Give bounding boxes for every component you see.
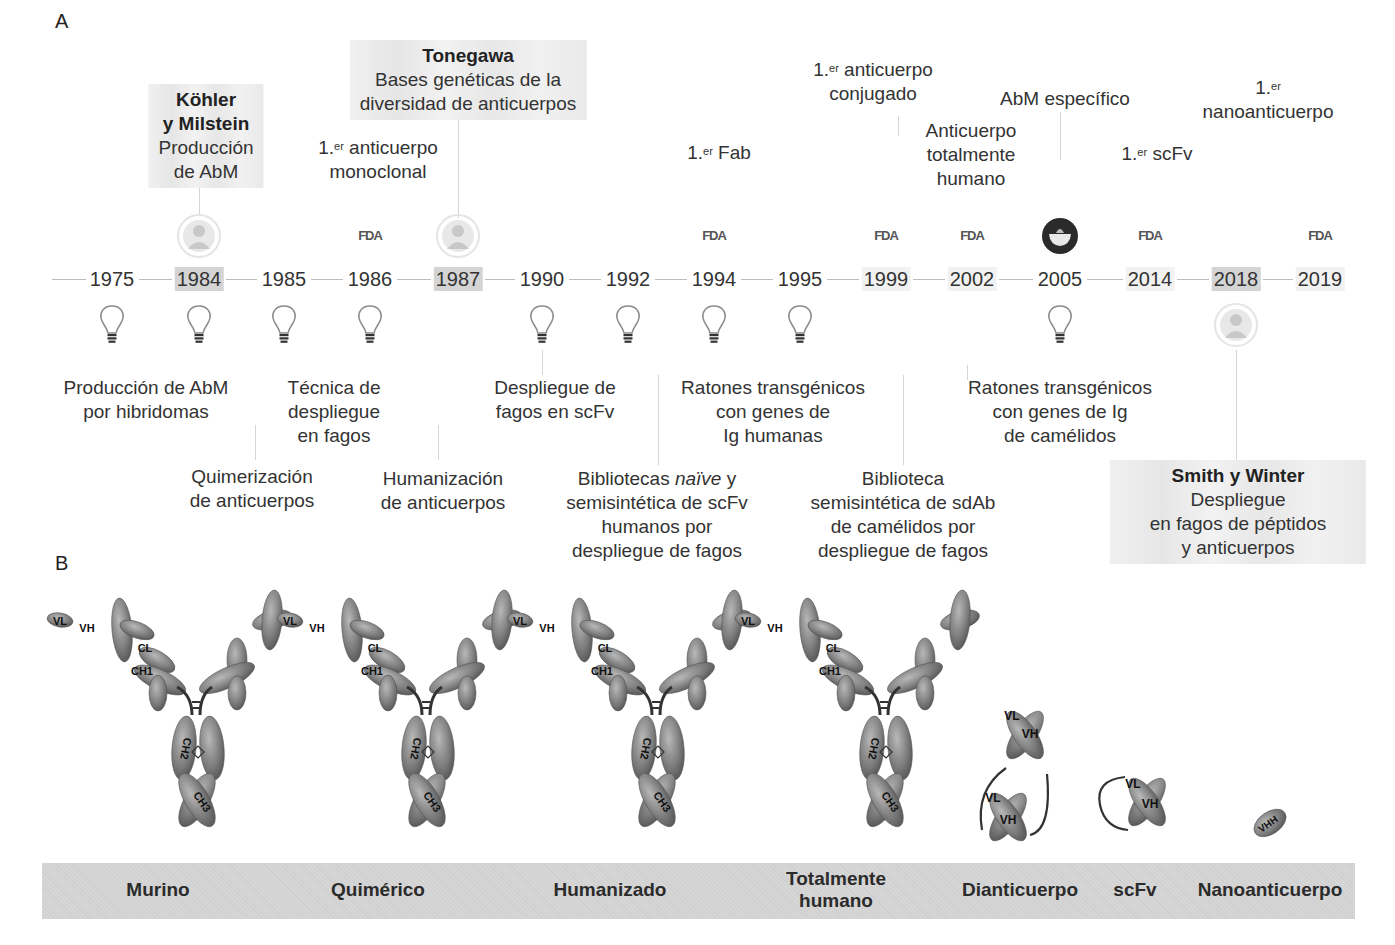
disulfide-bond	[652, 702, 660, 708]
ch1-domain	[916, 676, 934, 710]
cl-label: CL	[598, 642, 613, 654]
timeline-year: 1984	[175, 267, 224, 291]
timeline-year: 1986	[346, 267, 395, 291]
timeline-dash	[569, 279, 601, 280]
timeline-dash	[397, 279, 431, 280]
connector-line	[199, 186, 200, 216]
antibody-chimeric: VLVHCLCH1CH2CH3	[276, 589, 524, 832]
antibody-nanobody: VHH	[1249, 804, 1291, 843]
label-transgenic-human: Ratones transgénicos con genes de Ig hum…	[681, 376, 865, 448]
fda-logo-icon: FDA	[960, 228, 984, 243]
timeline-dash	[913, 279, 945, 280]
format-label-band	[42, 863, 1355, 919]
vh-label: VH	[1000, 813, 1017, 827]
vh-label: VH	[1022, 727, 1039, 741]
label-sdab-library: Biblioteca semisintética de sdAb de camé…	[811, 467, 996, 563]
timeline-dash	[655, 279, 687, 280]
format-label-human: Totalmentehumano	[786, 868, 886, 912]
vh-label: VH	[309, 622, 324, 634]
ch2-domain	[885, 715, 914, 781]
vl-label: VL	[741, 615, 755, 627]
antibody-scfv: VLVH	[1099, 773, 1172, 831]
vh-label: VH	[539, 622, 554, 634]
label-first-nanobody: 1.er nanoanticuerpo	[1203, 76, 1334, 124]
timeline-year: 1992	[604, 267, 653, 291]
timeline-dash	[999, 279, 1033, 280]
mortar-bowl-icon	[1041, 217, 1079, 259]
antibody-human: VLVHCLCH1CH2CH3	[734, 589, 982, 832]
timeline-year: 1995	[776, 267, 825, 291]
disulfide-bond	[880, 702, 888, 708]
vh-label: VH	[79, 622, 94, 634]
timeline-dash	[1087, 279, 1123, 280]
timeline-dash	[139, 279, 172, 280]
vh-label: VH	[1142, 797, 1159, 811]
timeline-year: 1985	[260, 267, 309, 291]
fda-logo-icon: FDA	[702, 228, 726, 243]
fda-logo-icon: FDA	[1308, 228, 1332, 243]
label-naive-libraries: Bibliotecas naïve y semisintética de scF…	[566, 467, 748, 563]
disulfide-bond	[192, 702, 200, 708]
ch2-domain	[657, 715, 686, 781]
label-phage-technique: Técnica de despliegue en fagos	[288, 376, 381, 448]
ch2-domain	[427, 715, 456, 781]
antibody-humanized: VLVHCLCH1CH2CH3	[506, 589, 754, 832]
disulfide-bond	[422, 702, 430, 708]
vl-label: VL	[1125, 777, 1140, 791]
timeline-dash	[1263, 279, 1293, 280]
connector-line	[658, 375, 659, 465]
timeline-year: 1999	[862, 267, 911, 291]
label-hybridoma: Producción de AbM por hibridomas	[64, 376, 229, 424]
timeline-dash	[311, 279, 343, 280]
timeline-year: 2014	[1126, 267, 1175, 291]
lightbulb-icon	[785, 303, 815, 349]
label-specific-mab: AbM específico	[1000, 87, 1130, 111]
connector-line	[458, 118, 459, 218]
linker	[1099, 777, 1128, 830]
label-chimerization: Quimerización de anticuerpos	[190, 465, 315, 513]
format-label-humanized: Humanizado	[554, 879, 667, 901]
ch1-label: CH1	[361, 665, 383, 677]
person-portrait-icon	[435, 213, 481, 263]
label-tonegawa: Tonegawa Bases genéticas de la diversida…	[350, 40, 587, 120]
panel-a-label: A	[55, 10, 68, 33]
antibody-murine: VLVHCLCH1CH2CH3	[46, 589, 294, 832]
cl-label: CL	[138, 642, 153, 654]
lightbulb-icon	[97, 303, 127, 349]
antibody-structures: VLVHCLCH1CH2CH3VLVHCLCH1CH2CH3VLVHCLCH1C…	[0, 580, 1395, 865]
timeline-year: 2005	[1036, 267, 1085, 291]
fda-logo-icon: FDA	[874, 228, 898, 243]
cl-label: CL	[826, 642, 841, 654]
connector-line	[903, 375, 904, 465]
connector-line	[898, 116, 899, 136]
ch1-label: CH1	[591, 665, 613, 677]
vl-label: VL	[985, 791, 1000, 805]
label-first-conjugated: 1.er anticuerpo conjugado	[813, 58, 933, 106]
ch1-domain	[228, 676, 246, 710]
ch2-domain	[197, 715, 226, 781]
lightbulb-icon	[355, 303, 385, 349]
lightbulb-icon	[1045, 303, 1075, 349]
label-humanization: Humanización de anticuerpos	[381, 467, 506, 515]
lightbulb-icon	[184, 303, 214, 349]
fda-logo-icon: FDA	[358, 228, 382, 243]
ch1-domain	[688, 676, 706, 710]
cl-label: CL	[368, 642, 383, 654]
ch1-domain	[458, 676, 476, 710]
vh-domain	[947, 589, 972, 651]
label-transgenic-camelid: Ratones transgénicos con genes de Ig de …	[968, 376, 1152, 448]
label-phage-scfv: Despliegue de fagos en scFv	[494, 376, 615, 424]
label-first-fab: 1.er Fab	[687, 141, 751, 165]
timeline-dash	[1177, 279, 1209, 280]
vl-label: VL	[53, 615, 67, 627]
format-label-scfv: scFv	[1113, 879, 1156, 901]
ch1-domain	[609, 675, 627, 711]
connector-line	[1060, 112, 1061, 160]
connector-line	[1236, 350, 1237, 460]
vh-label: VH	[767, 622, 782, 634]
ch1-domain	[379, 675, 397, 711]
panel-b-label: B	[55, 552, 68, 575]
timeline-year: 1975	[88, 267, 137, 291]
ch1-label: CH1	[131, 665, 153, 677]
label-smith-winter: Smith y Winter Despliegue en fagos de pé…	[1110, 460, 1366, 564]
